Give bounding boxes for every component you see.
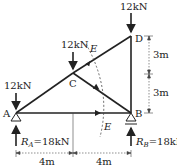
member-AC	[16, 73, 73, 113]
section-line-EE	[86, 44, 104, 137]
support-pin-A	[11, 113, 21, 121]
load-label-C: 12kN	[61, 39, 89, 50]
member-force-arrows	[85, 61, 101, 116]
reaction-label-B: RB=18kN	[135, 136, 177, 149]
node-label-A: A	[2, 108, 11, 119]
dim-label-lower: 3m	[153, 87, 169, 98]
section-label-top: E	[89, 43, 98, 54]
vertical-dimensions	[144, 36, 153, 113]
load-label-D: 12kN	[120, 1, 148, 12]
member-CB	[73, 73, 131, 113]
truss-diagram: E E A B C D 12kN 12kN 12kN RA=18kN RB=18…	[0, 0, 177, 168]
node-label-C: C	[69, 78, 77, 89]
triangle-icon	[11, 113, 21, 121]
node-label-D: D	[135, 33, 143, 44]
dim-label-upper: 3m	[153, 49, 169, 60]
load-arrows	[16, 13, 131, 109]
node-label-B: B	[135, 108, 142, 119]
arrow-icon	[95, 110, 101, 116]
dim-label-right: 4m	[96, 156, 112, 167]
section-label-bottom: E	[103, 121, 112, 132]
load-label-A: 12kN	[4, 80, 32, 91]
reaction-label-A: RA=18kN	[20, 136, 70, 149]
horizontal-dimensions	[16, 113, 131, 157]
dim-label-left: 4m	[39, 156, 55, 167]
